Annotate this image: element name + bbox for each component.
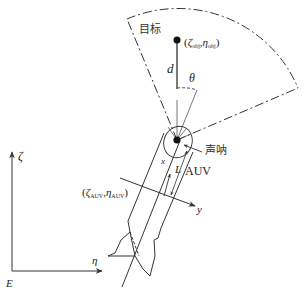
zeta-sub: obj	[192, 43, 200, 49]
origin-label: E	[6, 278, 13, 289]
target-label: 目标	[139, 24, 161, 35]
sonar-point	[173, 136, 180, 143]
theta-label: θ	[189, 72, 195, 84]
eta-sub: obj	[208, 43, 216, 49]
body-x-label: x	[161, 157, 165, 166]
theta-arc	[177, 88, 197, 90]
auv-label: AUV	[185, 165, 211, 177]
auv-body	[108, 133, 193, 276]
target-coordinate: (ζobj,ηobj)	[184, 37, 219, 49]
body-y-label: y	[197, 204, 202, 215]
length-label: L	[175, 164, 181, 175]
auv-coordinate: (ζAUV,ηAUV)	[82, 187, 128, 199]
distance-label: d	[167, 62, 174, 75]
eta-sub: AUV	[111, 193, 124, 199]
target-point	[174, 37, 181, 44]
eta-axis-label: η	[92, 255, 97, 266]
zeta-axis-label: ζ	[18, 150, 23, 162]
auv-sonar-diagram	[0, 0, 305, 294]
paren-close: )	[216, 36, 220, 48]
paren-close: )	[124, 186, 128, 198]
zeta-sub: AUV	[90, 193, 103, 199]
sonar-label: 声呐	[205, 145, 227, 156]
body-y-axis	[120, 178, 195, 206]
